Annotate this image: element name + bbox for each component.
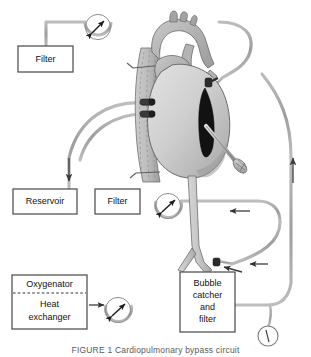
femoral-cannula [213,258,220,266]
figure-root: Filter Reservoir Filter Oxygenator Heat … [0,0,311,357]
component-catcher-label: catcher [193,290,223,300]
component-oxygenator-heat-exchanger[interactable]: Oxygenator Heat exchanger [12,275,87,329]
component-oxygenator-label: Oxygenator [26,279,73,289]
pressure-gauge[interactable] [258,326,278,346]
component-filter-top-label: Filter [36,54,56,64]
tube-femoral-limb [232,222,280,264]
flow-arrow-femoral-inflow [224,267,242,272]
component-bubble-catcher-filter[interactable]: Bubble catcher and filter [180,272,235,332]
component-filter-arterial-label: Filter [108,196,128,206]
tube-femoral-tip [219,261,232,264]
component-filter-top[interactable]: Filter [18,46,73,72]
roller-pump-heat-exchanger[interactable] [105,297,131,322]
component-and-label: and [200,302,215,312]
component-bubble-label: Bubble [193,278,221,288]
iliac-branch-left [178,248,196,272]
component-filter-arterial[interactable]: Filter [95,189,140,214]
component-reservoir-label: Reservoir [26,196,65,206]
figure-caption: FIGURE 1 Cardiopulmonary bypass circuit [0,345,311,357]
tube-suction-to-aorta [219,22,251,78]
component-heat-label: Heat [40,299,60,309]
component-reservoir[interactable]: Reservoir [13,189,77,214]
tube-right-margin-up [262,74,291,157]
tube-gauge-drop [268,305,271,328]
roller-pump-arterial[interactable] [155,193,181,218]
tube-bubble-to-right [235,157,291,305]
cpb-circuit-diagram: Filter Reservoir Filter Oxygenator Heat … [0,0,311,357]
component-filter-label: filter [199,314,216,324]
roller-pump-suction[interactable] [85,14,111,39]
component-exchanger-label: exchanger [28,312,70,322]
tube-suction-top-left [46,22,85,46]
anatomy-group [127,11,249,274]
